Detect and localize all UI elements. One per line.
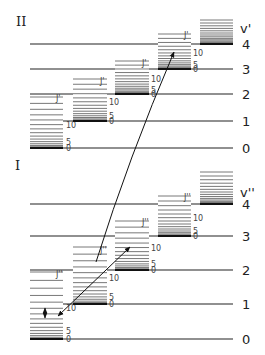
rotational-level-stack: 0510J' [115, 59, 161, 99]
rotational-quantum-number-label: J'' [183, 193, 191, 202]
rotational-level-stack: 0510J' [73, 77, 119, 126]
rotational-level-stack: 0510J'' [30, 270, 76, 344]
vibrational-level-label: 2 [242, 87, 250, 102]
rotational-quantum-number-label: J' [141, 59, 147, 68]
diagram-content: IIv'012340510J'0510J'0510J'0510J'Iv''012… [15, 14, 255, 347]
rotational-level-stack [200, 171, 233, 204]
electronic-state-label: II [16, 14, 26, 29]
rotational-j-value-label: 10 [66, 304, 76, 313]
rotational-j-value-label: 10 [151, 244, 161, 253]
rotational-j-value-label: 10 [109, 98, 119, 107]
rotational-level-stack: 0510J' [30, 94, 76, 153]
rotational-level-stack: 0510J'' [115, 218, 161, 275]
vibrational-level-label: 1 [242, 114, 250, 129]
rotational-level-stack: 0510J' [158, 31, 203, 74]
vibrational-level-label: 1 [242, 297, 250, 312]
rotational-j-value-label: 5 [109, 112, 114, 121]
rotational-j-value-label: 5 [66, 138, 71, 147]
rotational-level-stack: 0510J'' [73, 246, 119, 309]
rotational-quantum-number-label: J' [183, 31, 189, 40]
vibrational-level-label: 0 [242, 141, 250, 156]
rotational-j-value-label: 10 [193, 49, 203, 58]
rotational-j-value-label: 5 [193, 227, 198, 236]
vibrational-level-label: 3 [242, 229, 250, 244]
rotational-level-stack: 0510J'' [158, 193, 203, 241]
upper-state-section: IIv'012340510J'0510J'0510J'0510J' [16, 14, 251, 156]
rotational-j-value-label: 10 [193, 214, 203, 223]
rotational-j-value-label: 10 [151, 75, 161, 84]
rotational-quantum-number-label: J'' [141, 218, 149, 227]
rotational-j-value-label: 5 [66, 327, 71, 336]
rotational-j-value-label: 5 [151, 260, 156, 269]
rotational-quantum-number-label: J'' [55, 270, 63, 279]
vibrational-level-label: 2 [242, 263, 250, 278]
vibrational-level-label: 4 [242, 197, 250, 212]
rotational-j-value-label: 0 [66, 335, 71, 344]
rotational-j-value-label: 5 [151, 86, 156, 95]
vibrational-level-label: 4 [242, 37, 250, 52]
lower-state-section: Iv''012340510J''0510J''0510J''0510J'' [15, 158, 255, 347]
rotational-j-value-label: 5 [193, 61, 198, 70]
vibrational-level-label: 3 [242, 62, 250, 77]
rotational-level-stack [200, 19, 233, 44]
electronic-state-label: I [15, 158, 20, 173]
rotational-quantum-number-label: J' [55, 94, 61, 103]
energy-level-diagram: IIv'012340510J'0510J'0510J'0510J'Iv''012… [0, 0, 265, 355]
rotational-j-value-label: 5 [109, 293, 114, 302]
rotational-quantum-number-label: J' [99, 77, 105, 86]
rotational-j-value-label: 10 [109, 274, 119, 283]
vibrational-quantum-number-label: v' [240, 21, 251, 36]
vibrational-level-label: 0 [242, 332, 250, 347]
